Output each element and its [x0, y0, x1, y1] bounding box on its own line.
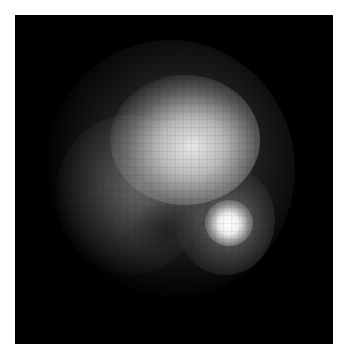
bright-hotspot — [205, 200, 253, 246]
image-frame — [15, 15, 333, 344]
dark-notch — [130, 200, 200, 260]
bright-core — [110, 75, 260, 205]
